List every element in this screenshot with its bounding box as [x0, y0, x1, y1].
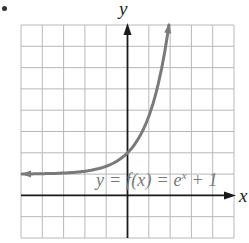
function-label-tail: + 1 [187, 170, 218, 190]
function-curve [22, 25, 169, 174]
axes [21, 23, 236, 238]
y-axis-label: y [119, 0, 127, 20]
x-axis-label: x [239, 185, 247, 207]
function-label-base: y = f(x) = e [96, 170, 182, 190]
exponential-graph [0, 0, 249, 243]
function-label: y = f(x) = ex + 1 [96, 169, 218, 191]
bullet-marker [2, 6, 7, 11]
